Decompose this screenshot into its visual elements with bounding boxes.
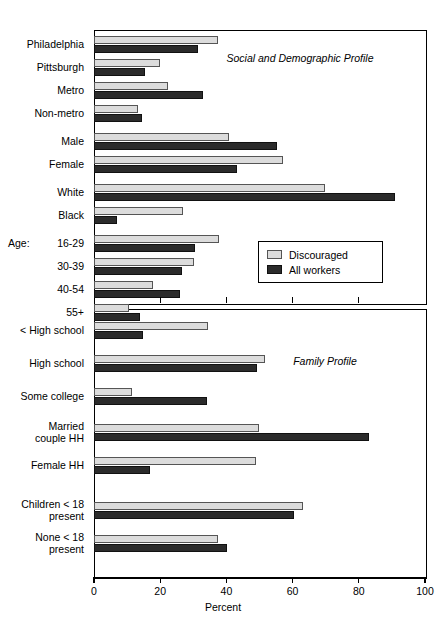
row-40-54-label: 40-54 [0, 284, 89, 296]
row-pittsburgh-label: Pittsburgh [0, 62, 89, 74]
row-40-54-discouraged-bar [94, 281, 153, 289]
row-female-hh-discouraged-bar [94, 457, 256, 465]
row-married-couple-hh-discouraged-bar [94, 424, 259, 432]
row-female-discouraged-bar [94, 156, 283, 164]
legend-entry-discouraged: Discouraged [267, 247, 382, 262]
row-none-18-present-all-workers-bar [94, 544, 227, 552]
row-16-29-discouraged-bar [94, 235, 219, 243]
row-30-39-all-workers-bar [94, 267, 182, 275]
x-axis-title: Percent [0, 601, 446, 613]
row-white-all-workers-bar [94, 193, 395, 201]
row-black-discouraged-bar [94, 207, 183, 215]
x-tick-label-20: 20 [140, 585, 180, 597]
row-black-label: Black [0, 210, 89, 222]
legend-entry-all-workers: All workers [267, 262, 382, 277]
row-children-18-present-label: Children < 18present [0, 499, 89, 522]
row-high-school-label: High school [0, 358, 89, 370]
row-male-all-workers-bar [94, 142, 277, 150]
chart-legend: Discouraged All workers [258, 241, 383, 283]
x-tick-label-60: 60 [273, 585, 313, 597]
upper-panel-note: Social and Demographic Profile [205, 52, 395, 65]
row-high-school-all-workers-bar [94, 364, 257, 372]
row-non-metro-discouraged-bar [94, 105, 138, 113]
row-female-label: Female [0, 159, 89, 171]
row-55-label: 55+ [0, 307, 89, 319]
row-30-39-discouraged-bar [94, 258, 194, 266]
row-some-college-discouraged-bar [94, 388, 132, 396]
row-55-all-workers-bar [94, 313, 140, 321]
upper-panel-inner-tick-60 [292, 297, 293, 303]
legend-label-discouraged: Discouraged [289, 249, 348, 261]
row-children-18-present-all-workers-bar [94, 511, 294, 519]
upper-panel-inner-tick-20 [160, 297, 161, 303]
row-non-metro-all-workers-bar [94, 114, 142, 122]
row-16-29-label: Age:16-29 [0, 238, 89, 250]
row-30-39-label: 30-39 [0, 261, 89, 273]
row-philadelphia-all-workers-bar [94, 45, 198, 53]
x-tick-label-40: 40 [206, 585, 246, 597]
row-metro-label: Metro [0, 85, 89, 97]
row-philadelphia-label: Philadelphia [0, 39, 89, 51]
x-tick-label-100: 100 [405, 585, 445, 597]
row-metro-all-workers-bar [94, 91, 203, 99]
row-40-54-all-workers-bar [94, 290, 180, 298]
row-male-label: Male [0, 136, 89, 148]
row-metro-discouraged-bar [94, 82, 168, 90]
legend-swatch-discouraged-icon [267, 250, 282, 259]
x-tick-label-80: 80 [339, 585, 379, 597]
row-female-hh-label: Female HH [0, 460, 89, 472]
row-pittsburgh-discouraged-bar [94, 59, 160, 67]
upper-panel-inner-tick-80 [358, 297, 359, 303]
upper-panel-inner-tick-40 [226, 297, 227, 303]
row-high-school-discouraged-bar [94, 322, 208, 330]
row-none-18-present-discouraged-bar [94, 535, 218, 543]
x-tick-label-0: 0 [74, 585, 114, 597]
row-white-discouraged-bar [94, 184, 325, 192]
row-high-school-label: < High school [0, 325, 89, 337]
row-16-29-all-workers-bar [94, 244, 195, 252]
row-black-all-workers-bar [94, 216, 117, 224]
row-philadelphia-discouraged-bar [94, 36, 218, 44]
legend-label-all-workers: All workers [289, 264, 340, 276]
row-pittsburgh-all-workers-bar [94, 68, 145, 76]
row-white-label: White [0, 187, 89, 199]
x-axis-line [94, 577, 425, 578]
lower-panel-note: Family Profile [255, 355, 395, 368]
row-male-discouraged-bar [94, 133, 229, 141]
row-some-college-label: Some college [0, 391, 89, 403]
row-non-metro-label: Non-metro [0, 108, 89, 120]
legend-swatch-all-workers-icon [267, 265, 282, 274]
chart-figure: Social and Demographic Profile Family Pr… [0, 0, 446, 635]
row-married-couple-hh-label: Marriedcouple HH [0, 421, 89, 444]
row-children-18-present-discouraged-bar [94, 502, 303, 510]
row-high-school-discouraged-bar [94, 355, 265, 363]
row-55-discouraged-bar [94, 304, 129, 312]
row-16-29-label-prefix: Age: [8, 238, 30, 250]
row-high-school-all-workers-bar [94, 331, 143, 339]
row-female-hh-all-workers-bar [94, 466, 150, 474]
row-some-college-all-workers-bar [94, 397, 207, 405]
row-none-18-present-label: None < 18present [0, 532, 89, 555]
row-married-couple-hh-all-workers-bar [94, 433, 369, 441]
row-female-all-workers-bar [94, 165, 237, 173]
